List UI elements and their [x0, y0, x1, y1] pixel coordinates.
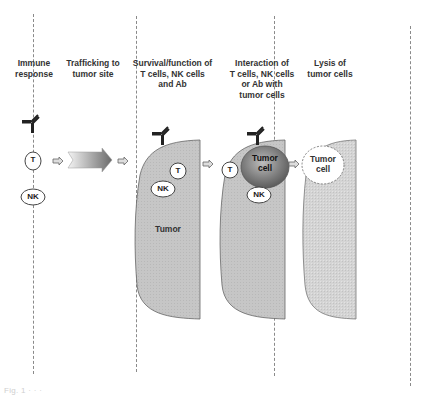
- t-cell-label: T: [27, 155, 39, 164]
- figure-caption: Fig. 1 · · ·: [4, 386, 42, 395]
- tumor-cell-label-line: Tumor: [245, 153, 285, 163]
- tumor-cell-label-line: cell: [303, 164, 343, 174]
- nk-cell-label: NK: [23, 192, 43, 201]
- antibody-icon: [22, 115, 39, 133]
- t-cell-label: T: [224, 165, 236, 174]
- gradient-arrow-icon: [68, 148, 112, 172]
- small-arrow-icon: [203, 160, 213, 168]
- tumor-cell-label-line: cell: [245, 163, 285, 173]
- tumor-label: Tumor: [148, 224, 188, 234]
- nk-cell-label: NK: [153, 184, 173, 193]
- small-arrow-icon: [289, 160, 299, 168]
- small-arrow-icon: [53, 157, 63, 165]
- lysed-tumor-cell-label: Tumor cell: [303, 154, 343, 174]
- nk-cell-label: NK: [249, 190, 269, 199]
- small-arrow-icon: [118, 157, 128, 165]
- tumor-cell-label: Tumor cell: [245, 153, 285, 173]
- diagram-graphics: [0, 0, 421, 396]
- t-cell-label: T: [172, 166, 184, 175]
- immunotherapy-diagram: Immune response Trafficking to tumor sit…: [0, 0, 421, 396]
- tumor-cell-label-line: Tumor: [303, 154, 343, 164]
- antibody-icon: [152, 127, 169, 145]
